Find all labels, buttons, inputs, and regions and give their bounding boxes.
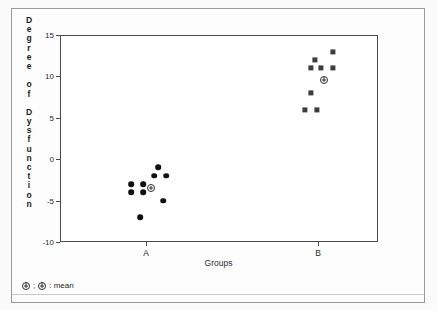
data-point-a (137, 214, 143, 220)
data-point-b (315, 107, 320, 112)
y-tick-mark (56, 242, 60, 243)
legend-divider (12, 294, 424, 295)
legend: ; : mean (22, 281, 74, 290)
chart-root: Degree of Dysfunction 151050-5-10 AB Gro… (0, 0, 437, 311)
data-point-a (128, 181, 134, 187)
mean-marker-a (147, 184, 155, 192)
x-tick-label-a: A (143, 248, 149, 258)
circle-plus-mean-icon (22, 282, 30, 290)
data-point-a (160, 198, 166, 204)
data-point-b (330, 49, 335, 54)
data-point-a (151, 173, 157, 179)
data-point-a (140, 181, 146, 187)
x-tick-mark-b (318, 242, 319, 246)
data-point-b (309, 90, 314, 95)
legend-separator: ; (33, 281, 35, 290)
data-point-a (128, 190, 134, 196)
y-tick-label: 10 (30, 72, 54, 81)
circle-plus-mean-icon-2 (38, 282, 46, 290)
data-point-b (309, 66, 314, 71)
y-tick-label: 15 (30, 31, 54, 40)
data-point-b (303, 107, 308, 112)
data-point-a (155, 165, 161, 171)
x-tick-mark-a (146, 242, 147, 246)
x-axis-label: Groups (0, 258, 437, 268)
y-tick-label: -10 (30, 238, 54, 247)
data-point-b (312, 57, 317, 62)
legend-label: : mean (49, 281, 73, 290)
data-point-b (330, 66, 335, 71)
y-tick-label: 5 (30, 113, 54, 122)
data-point-a (163, 173, 169, 179)
y-tick-label: -5 (30, 196, 54, 205)
mean-marker-b (320, 76, 328, 84)
data-point-b (319, 66, 324, 71)
y-tick-label: 0 (30, 155, 54, 164)
data-point-a (140, 190, 146, 196)
x-tick-label-b: B (315, 248, 321, 258)
